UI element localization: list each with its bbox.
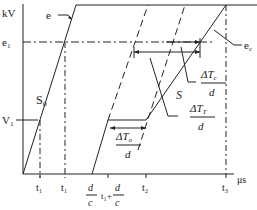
tick-dc-den: c [88,197,93,208]
tick-t1dc-num: d [115,182,121,193]
wave-diagram: kV e e₁ So V₁ ec S ΔTc d ΔTT d ΔTo d t₁ … [0,0,257,210]
tick-t2: t₂ [142,182,148,193]
tick-t1b: t₁ [61,182,67,193]
label-e: e [46,9,51,21]
label-dTc-den: d [209,86,215,98]
label-dTo-num: ΔTo [115,130,133,144]
label-dTc-num: ΔTc [200,68,218,82]
label-V1: V₁ [2,114,14,126]
leader-ec [214,30,242,45]
y-axis-label: kV [2,7,16,19]
leader-dTT [150,58,178,116]
tick-t1dc-pre: t₁+ [101,191,112,201]
incident-wave-S0 [23,5,76,174]
label-dTT-num: ΔTT [189,102,208,116]
tick-t1dc-den: c [115,197,120,208]
label-S: S [176,88,182,102]
dashed-wave-1 [108,5,148,120]
label-e1: e₁ [2,36,11,48]
tick-t3: t₃ [222,182,228,193]
composite-wave-S [146,5,226,120]
tick-dc-num: d [88,182,94,193]
label-dTo-den: d [125,148,131,160]
label-S0: So [36,93,47,108]
label-ec: ec [244,39,252,53]
diagram-root: kV e e₁ So V₁ ec S ΔTc d ΔTT d ΔTo d t₁ … [0,0,257,210]
tick-t1a: t₁ [36,182,42,193]
label-dTT-den: d [198,120,204,132]
x-axis-label: μs [237,174,246,185]
